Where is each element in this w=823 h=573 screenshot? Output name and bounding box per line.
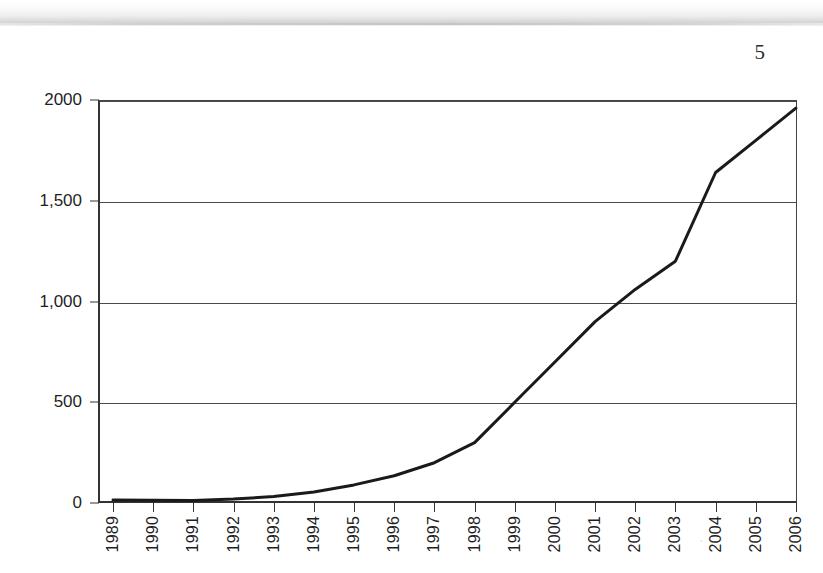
y-axis-tick-mark xyxy=(90,100,99,101)
y-axis-tick-label: 500 xyxy=(0,392,82,412)
plot-area xyxy=(98,100,797,503)
x-axis-tick-mark xyxy=(555,503,556,512)
x-axis-tick-mark xyxy=(234,503,235,512)
y-axis-tick-mark xyxy=(90,200,99,201)
x-axis-tick-mark xyxy=(394,503,395,512)
line-chart: 05001,0001,50020001989199019911992199319… xyxy=(0,0,823,573)
x-axis-tick-label: 1996 xyxy=(385,516,403,552)
y-gridline xyxy=(100,202,796,203)
x-axis-tick-mark xyxy=(515,503,516,512)
x-axis-tick-label: 1998 xyxy=(466,516,484,552)
x-axis-tick-label: 2002 xyxy=(626,516,644,552)
x-axis-tick-label: 1990 xyxy=(144,516,162,552)
x-axis-tick-mark xyxy=(675,503,676,512)
x-axis-tick-mark xyxy=(475,503,476,512)
x-axis-tick-mark xyxy=(635,503,636,512)
x-axis-tick-label: 1992 xyxy=(225,516,243,552)
y-axis-tick-mark xyxy=(90,402,99,403)
x-axis-tick-label: 2003 xyxy=(666,516,684,552)
x-axis-tick-label: 2001 xyxy=(586,516,604,552)
x-axis-tick-mark xyxy=(434,503,435,512)
x-axis-tick-label: 1995 xyxy=(345,516,363,552)
x-axis-tick-mark xyxy=(193,503,194,512)
y-axis-tick-label: 1,500 xyxy=(0,191,82,211)
x-axis-tick-label: 2004 xyxy=(707,516,725,552)
y-gridline xyxy=(100,101,796,102)
x-axis-tick-label: 2005 xyxy=(747,516,765,552)
y-gridline xyxy=(100,303,796,304)
x-axis-tick-label: 1997 xyxy=(425,516,443,552)
y-axis-tick-label: 0 xyxy=(0,493,82,513)
x-axis-tick-mark xyxy=(314,503,315,512)
y-axis-tick-label: 1,000 xyxy=(0,292,82,312)
x-axis-tick-label: 1999 xyxy=(506,516,524,552)
x-axis-tick-mark xyxy=(274,503,275,512)
x-axis-tick-mark xyxy=(756,503,757,512)
x-axis-tick-label: 1991 xyxy=(184,516,202,552)
x-axis-tick-mark xyxy=(354,503,355,512)
y-axis-tick-mark xyxy=(90,301,99,302)
x-axis-tick-mark xyxy=(595,503,596,512)
y-gridline xyxy=(100,403,796,404)
y-axis-tick-label: 2000 xyxy=(0,90,82,110)
x-axis-tick-mark xyxy=(716,503,717,512)
x-axis-tick-mark xyxy=(796,503,797,512)
x-axis-tick-label: 1993 xyxy=(265,516,283,552)
x-axis-tick-mark xyxy=(113,503,114,512)
x-axis-tick-label: 1994 xyxy=(305,516,323,552)
x-axis-tick-label: 1989 xyxy=(104,516,122,552)
x-axis-tick-label: 2006 xyxy=(787,516,805,552)
x-axis-tick-label: 2000 xyxy=(546,516,564,552)
x-axis-tick-mark xyxy=(153,503,154,512)
y-axis-tick-mark xyxy=(90,503,99,504)
